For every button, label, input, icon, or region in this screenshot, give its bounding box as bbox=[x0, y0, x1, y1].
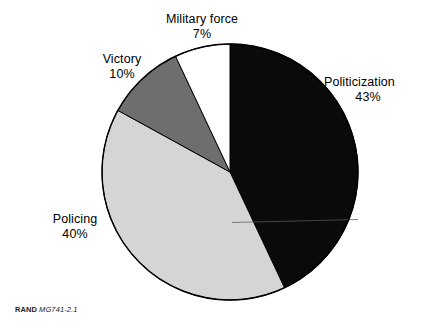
slice-label-policing: Policing 40% bbox=[20, 212, 130, 241]
slice-label-policing-name: Policing bbox=[53, 212, 98, 226]
rand-wordmark: RAND bbox=[15, 305, 37, 314]
slice-label-policing-value: 40% bbox=[20, 227, 130, 242]
slice-label-military-force-name: Military force bbox=[166, 12, 238, 26]
slice-label-politicization-value: 43% bbox=[324, 90, 412, 105]
slice-label-military-force: Military force 7% bbox=[137, 12, 267, 41]
slice-label-politicization: Politicization 43% bbox=[324, 75, 428, 104]
pie-chart-figure: Military force 7% Victory 10% Policing 4… bbox=[0, 0, 428, 331]
slice-label-victory: Victory 10% bbox=[67, 52, 177, 81]
document-id: MG741-2.1 bbox=[39, 305, 77, 314]
slice-label-military-force-value: 7% bbox=[137, 27, 267, 42]
figure-source-footer: RANDMG741-2.1 bbox=[15, 305, 78, 314]
slice-label-victory-name: Victory bbox=[103, 52, 142, 66]
slice-label-victory-value: 10% bbox=[67, 67, 177, 82]
slice-label-politicization-name: Politicization bbox=[324, 75, 395, 89]
pie-chart-graphic bbox=[0, 0, 428, 331]
